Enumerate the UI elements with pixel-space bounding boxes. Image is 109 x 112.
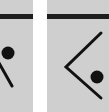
dot-icon bbox=[2, 47, 15, 60]
dot-icon bbox=[91, 71, 104, 84]
diagonal-line-icon bbox=[0, 63, 12, 86]
chevron-left-icon bbox=[66, 33, 101, 98]
glyph-layer bbox=[0, 0, 109, 112]
left-tile-glyphs bbox=[0, 47, 15, 87]
right-tile-glyphs bbox=[66, 33, 104, 98]
